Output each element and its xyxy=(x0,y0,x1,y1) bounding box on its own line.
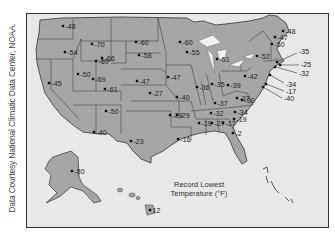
record-label-ma: -35 xyxy=(299,48,309,55)
record-label-nd: -60 xyxy=(139,39,149,46)
marker-ia xyxy=(167,76,169,78)
marker-wa xyxy=(62,25,64,27)
marker-nm xyxy=(105,110,107,112)
marker-ct xyxy=(274,66,276,68)
marker-la xyxy=(177,138,179,140)
record-label-il: -36 xyxy=(200,84,210,91)
marker-wy xyxy=(101,57,103,59)
record-label-fl: -2 xyxy=(236,130,242,137)
marker-fl xyxy=(232,132,234,134)
record-label-mn: -60 xyxy=(183,39,193,46)
record-label-ar: -29 xyxy=(180,112,190,119)
record-label-hi: 12 xyxy=(153,207,161,214)
marker-ak xyxy=(71,170,73,172)
record-label-or: -54 xyxy=(68,49,78,56)
record-label-ct: -32 xyxy=(299,70,309,77)
record-label-in: -35 xyxy=(215,81,225,88)
data-credit: Data Courtesy National Climatic Data Cen… xyxy=(7,23,17,212)
record-label-nm: -50 xyxy=(109,108,119,115)
marker-ok xyxy=(169,114,171,116)
record-label-ms: -19 xyxy=(202,120,212,127)
record-label-de: -17 xyxy=(286,88,296,95)
record-label-vt: -50 xyxy=(275,41,285,48)
legend-line-2: Temperature (°F) xyxy=(171,189,228,198)
record-label-ak: -80 xyxy=(75,168,85,175)
record-label-me: -48 xyxy=(286,28,296,35)
marker-mo xyxy=(176,96,178,98)
marker-tn xyxy=(210,112,212,114)
record-label-nj: -34 xyxy=(286,81,296,88)
marker-ri xyxy=(279,64,281,66)
marker-ga xyxy=(222,122,224,124)
credit-text-container: Data Courtesy National Climatic Data Cen… xyxy=(2,0,22,236)
us-map: -48-54-45-50-60-70-66-69-61-40-50-23-60-… xyxy=(27,14,329,228)
record-label-wa: -48 xyxy=(66,23,76,30)
record-label-mo: -40 xyxy=(180,94,190,101)
caribbean-islands xyxy=(263,167,293,203)
marker-md xyxy=(262,86,264,88)
record-label-ia: -47 xyxy=(171,74,181,81)
marker-sc xyxy=(233,118,235,120)
record-label-ut: -69 xyxy=(96,76,106,83)
record-label-wi: -55 xyxy=(190,49,200,56)
record-label-mt: -70 xyxy=(95,41,105,48)
record-label-oh: -39 xyxy=(231,82,241,89)
record-label-ny: -52 xyxy=(260,53,270,60)
marker-nd xyxy=(135,41,137,43)
marker-hi xyxy=(149,209,151,211)
marker-nc xyxy=(234,111,236,113)
record-label-wy: -66 xyxy=(105,55,115,62)
marker-co xyxy=(104,88,106,90)
record-label-co: -61 xyxy=(108,86,118,93)
marker-az xyxy=(93,131,95,133)
marker-ma xyxy=(276,61,278,63)
record-label-md: -40 xyxy=(284,95,294,102)
marker-mn xyxy=(179,41,181,43)
record-label-sd: -58 xyxy=(142,52,152,59)
marker-al xyxy=(211,122,213,124)
alaska-shape xyxy=(45,151,101,203)
marker-ar xyxy=(176,114,178,116)
marker-de xyxy=(265,83,267,85)
record-label-sc: -19 xyxy=(237,116,247,123)
marker-ne xyxy=(136,80,138,82)
marker-il xyxy=(196,86,198,88)
marker-ny xyxy=(256,55,258,57)
marker-id xyxy=(95,60,97,62)
record-label-ks: -27 xyxy=(153,90,163,97)
record-label-tn: -32 xyxy=(214,110,224,117)
marker-mt xyxy=(91,43,93,45)
marker-ut xyxy=(92,78,94,80)
record-label-tx: -23 xyxy=(134,138,144,145)
record-label-ne: -47 xyxy=(140,78,150,85)
marker-nv xyxy=(77,73,79,75)
marker-tx xyxy=(130,140,132,142)
record-label-ky: -37 xyxy=(218,100,228,107)
record-label-la: -16 xyxy=(181,136,191,143)
marker-oh xyxy=(227,84,229,86)
marker-ks xyxy=(149,92,151,94)
marker-sd xyxy=(138,54,140,56)
marker-mi xyxy=(216,58,218,60)
record-label-ri: -25 xyxy=(301,61,311,68)
marker-vt xyxy=(271,43,273,45)
record-label-wv: -37 xyxy=(240,95,250,102)
record-label-ga: -17 xyxy=(226,120,236,127)
record-label-nv: -50 xyxy=(81,71,91,78)
marker-pa xyxy=(244,75,246,77)
marker-wi xyxy=(186,51,188,53)
record-label-az: -40 xyxy=(97,129,107,136)
record-label-nh: -47 xyxy=(278,34,288,41)
legend-line-1: Record Lowest xyxy=(174,180,225,189)
marker-or xyxy=(64,51,66,53)
marker-ky xyxy=(214,102,216,104)
map-frame: -48-54-45-50-60-70-66-69-61-40-50-23-60-… xyxy=(26,13,329,228)
record-label-pa: -42 xyxy=(248,73,258,80)
marker-nh xyxy=(274,36,276,38)
record-label-mi: -51 xyxy=(220,56,230,63)
record-label-nc: -34 xyxy=(238,109,248,116)
marker-ms xyxy=(198,122,200,124)
marker-nj xyxy=(269,74,271,76)
marker-ca xyxy=(48,82,50,84)
record-label-ca: -45 xyxy=(52,80,62,87)
